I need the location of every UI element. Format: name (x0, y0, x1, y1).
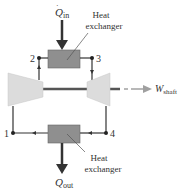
state-label-3: 3 (96, 53, 101, 64)
state-point-2 (37, 56, 41, 60)
dot-accent: · (56, 1, 59, 10)
state-point-1 (11, 131, 15, 135)
state-point-3 (90, 56, 94, 60)
heat-exchanger-top-label-2: exchanger (86, 21, 123, 31)
flow-arrow-left-1 (32, 131, 36, 135)
heat-exchanger-top-label-1: Heat (93, 10, 110, 20)
state-label-2: 2 (30, 53, 35, 64)
work-out-label: Wshaft (155, 83, 177, 96)
heat-out-label: Qout (55, 176, 74, 190)
work-out-arrow (124, 85, 152, 93)
heat-exchanger-bottom (48, 125, 80, 143)
heat-exchanger-bottom-label-2: exchanger (85, 164, 122, 174)
flow-arrow-down (90, 70, 94, 74)
state-label-4: 4 (110, 128, 115, 139)
heat-exchanger-top (48, 50, 80, 68)
flow-arrow-up (37, 65, 41, 69)
compressor (8, 73, 43, 106)
state-point-4 (104, 131, 108, 135)
turbine (87, 73, 110, 106)
heat-exchanger-bottom-label-1: Heat (91, 153, 108, 163)
state-label-1: 1 (4, 128, 9, 139)
cycle-diagram: Qin · Heat exchanger 2 3 Wshaft 1 4 (0, 0, 183, 191)
heat-in-arrow (56, 20, 68, 50)
flow-arrow-left-2 (88, 131, 92, 135)
heat-out-arrow (56, 143, 68, 174)
